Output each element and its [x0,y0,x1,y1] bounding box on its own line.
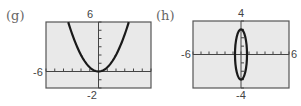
charts-canvas [0,0,301,106]
